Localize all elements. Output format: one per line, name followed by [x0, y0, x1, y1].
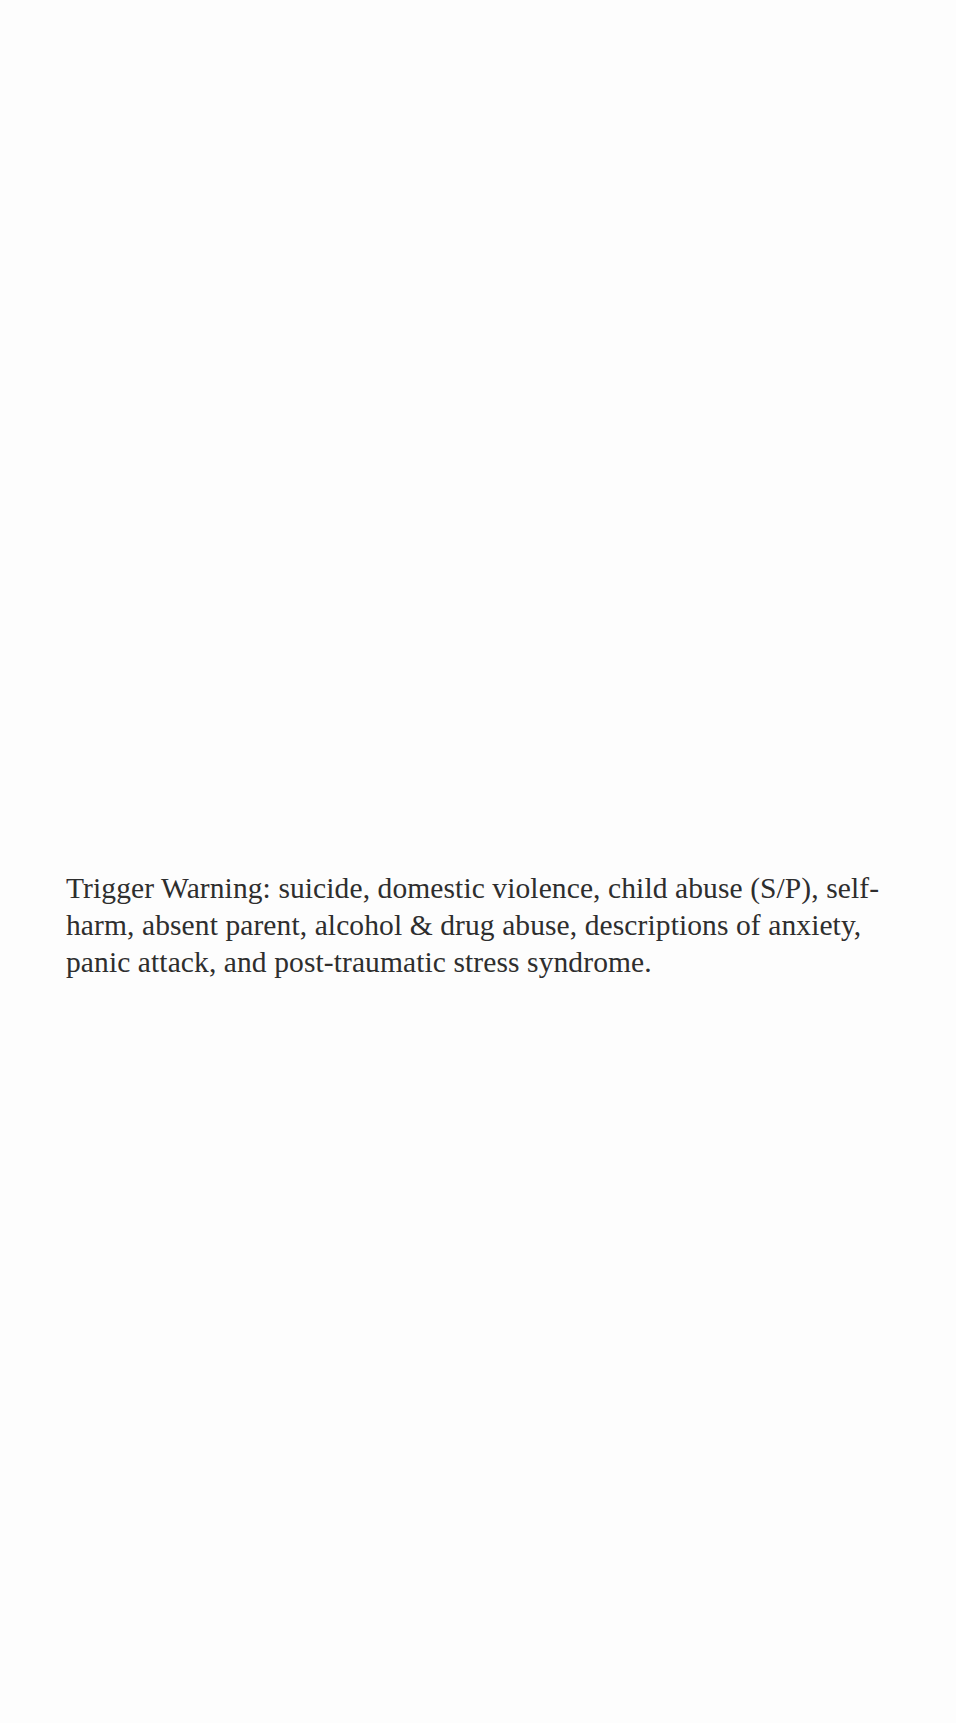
document-page: Trigger Warning: suicide, domestic viole… — [0, 0, 956, 1723]
trigger-warning-text: Trigger Warning: suicide, domestic viole… — [66, 870, 886, 981]
